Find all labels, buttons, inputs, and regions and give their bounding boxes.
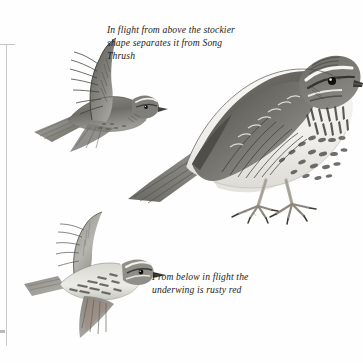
page-rule-horizontal [0,44,15,45]
redwing-in-flight-from-below [22,212,172,340]
page-rule-tick [0,330,5,333]
caption-in-flight-from-above: In flight from above the stockier shape … [107,23,239,63]
page-rule-vertical [6,44,7,346]
illustration-plate: In flight from above the stockier shape … [0,0,363,363]
caption-from-below-in-flight: From below in flight the underwing is ru… [152,270,280,296]
